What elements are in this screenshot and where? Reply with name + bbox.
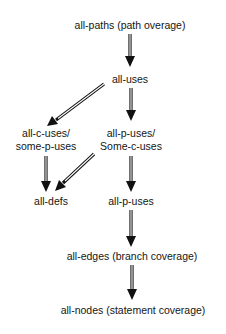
arrow-all-p-uses-some-c-to-all-p-uses (126, 156, 136, 192)
node-all-c-uses-line1: all-c-uses/ (22, 128, 70, 139)
arrow-all-paths-to-all-uses (125, 34, 135, 67)
node-all-nodes: all-nodes (statement coverage) (61, 305, 206, 316)
arrow-all-p-uses-to-all-edges (126, 210, 136, 247)
node-all-p-uses-some-c-line1: all-p-uses/ (107, 128, 155, 139)
arrow-all-uses-to-all-p-uses-some-c (126, 88, 136, 121)
arrow-all-edges-to-all-nodes (127, 265, 137, 300)
node-all-uses: all-uses (112, 74, 148, 85)
arrow-all-c-uses-to-all-defs (41, 156, 51, 192)
node-all-p-uses: all-p-uses (108, 196, 154, 207)
node-all-defs: all-defs (34, 196, 68, 207)
arrow-all-uses-to-all-c-uses (47, 84, 104, 126)
arrows-layer (0, 0, 226, 334)
node-all-p-uses-some-c-line2: Some-c-uses (100, 141, 162, 152)
node-all-c-uses-line2: some-p-uses (16, 141, 77, 152)
node-all-paths: all-paths (path overage) (75, 20, 186, 31)
arrow-all-p-uses-some-c-to-all-defs (55, 154, 94, 191)
node-all-edges: all-edges (branch coverage) (67, 251, 198, 262)
